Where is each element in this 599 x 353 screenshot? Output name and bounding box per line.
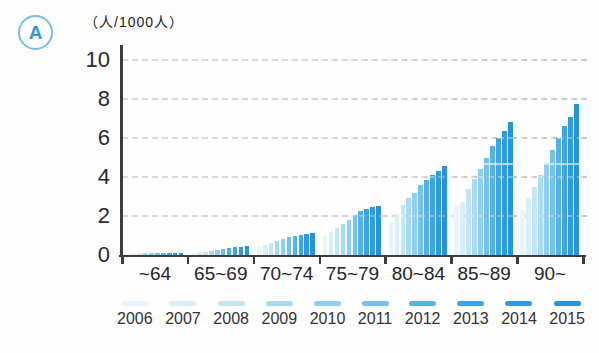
x-category-label-75~79: 75~79 [326,263,379,285]
legend-item-2012: 2012 [405,301,441,328]
x-axis-tick-7 [582,256,585,264]
x-axis-tick-6 [516,256,519,264]
bar-2011-85~89 [484,158,489,256]
x-axis-tick-5 [450,256,453,264]
legend-item-2015: 2015 [549,301,585,328]
legend-swatch-2012 [409,301,436,306]
bar-2009-70~74 [275,241,280,255]
gridline-overlay-y2 [122,215,583,217]
bar-2011-75~79 [353,215,358,255]
legend-item-2008: 2008 [213,301,249,328]
legend-swatch-2011 [362,301,389,306]
legend-swatch-2010 [314,301,341,306]
x-category-label-70~74: 70~74 [260,263,313,285]
bar-2013-85~89 [496,138,501,255]
bar-2007-90~ [526,198,531,255]
legend-swatch-2007 [169,301,196,306]
bar-2011-90~ [550,150,555,255]
bar-2008-70~74 [269,243,274,255]
legend-swatch-2013 [457,301,484,306]
bar-2012-80~84 [424,180,429,255]
bar-2009-80~84 [406,198,411,255]
bar-2015-75~79 [376,206,381,255]
y-tick-label-4: 4 [64,164,110,190]
bar-2006-80~84 [389,222,394,255]
bar-2007-80~84 [395,214,400,255]
x-category-label-80~84: 80~84 [392,263,445,285]
bar-2014-70~74 [304,234,309,255]
x-axis-tick-1 [187,256,190,264]
bar-2006-85~89 [454,205,459,255]
legend-item-2013: 2013 [453,301,489,328]
legend-item-2010: 2010 [310,301,346,328]
bar-2007-75~79 [329,232,334,255]
legend-swatch-2008 [218,301,245,306]
y-tick-label-10: 10 [64,47,110,73]
gridline-overlay-y4 [122,176,583,178]
bar-2009-75~79 [341,224,346,255]
legend-item-2006: 2006 [117,301,153,328]
x-axis-tick-2 [253,256,256,264]
chart-legend: 2006200720082009201020112012201320142015 [117,301,585,328]
scanned-chart-page: A （人/1000人） 0246810~6465~6970~7475~7980~… [0,0,599,353]
bar-2011-80~84 [418,185,423,255]
legend-swatch-2014 [505,301,532,306]
y-tick-label-2: 2 [64,203,110,229]
gridline-overlay-y6 [122,137,583,139]
legend-year-label: 2007 [165,310,201,328]
legend-year-label: 2013 [453,310,489,328]
bar-2014-80~84 [436,171,441,255]
legend-item-2009: 2009 [262,301,298,328]
bar-2012-75~79 [358,211,363,255]
legend-item-2007: 2007 [165,301,201,328]
bar-2008-75~79 [335,228,340,255]
bar-2015-90~ [574,104,579,255]
legend-year-label: 2011 [358,310,392,328]
bar-2011-70~74 [287,237,292,255]
legend-swatch-2015 [554,301,581,306]
x-axis-tick-4 [384,256,387,264]
x-category-label-85~89: 85~89 [458,263,511,285]
bar-2007-85~89 [460,202,465,255]
legend-year-label: 2008 [213,310,249,328]
print-artifact-line [452,163,583,165]
legend-year-label: 2009 [262,310,298,328]
bar-2008-90~ [532,187,537,255]
bar-2013-90~ [562,126,567,255]
legend-item-2014: 2014 [501,301,537,328]
bar-2015-85~89 [508,122,513,255]
x-category-label-~64: ~64 [139,263,171,285]
legend-swatch-2009 [266,301,293,306]
y-axis-line [120,45,123,257]
x-axis-tick-3 [319,256,322,264]
x-category-label-65~69: 65~69 [194,263,247,285]
bar-2010-85~89 [478,169,483,255]
bar-2006-75~79 [323,236,328,256]
x-axis-tick-0 [121,256,124,264]
bar-2012-90~ [556,138,561,255]
gridline-overlay-y8 [122,98,583,100]
bar-2014-85~89 [502,131,507,255]
bar-2008-85~89 [466,189,471,255]
legend-year-label: 2014 [501,310,537,328]
bar-2015-70~74 [310,233,315,255]
x-category-label-90~: 90~ [534,263,566,285]
legend-year-label: 2006 [117,310,153,328]
bar-2010-75~79 [347,220,352,255]
legend-year-label: 2012 [405,310,441,328]
legend-year-label: 2015 [549,310,585,328]
bar-2008-80~84 [401,205,406,255]
y-tick-label-0: 0 [64,242,110,268]
legend-year-label: 2010 [310,310,346,328]
legend-item-2011: 2011 [358,301,392,328]
bar-2010-80~84 [412,193,417,255]
legend-swatch-2006 [121,301,148,306]
bar-2010-70~74 [281,239,286,255]
y-tick-label-6: 6 [64,125,110,151]
y-tick-label-8: 8 [64,86,110,112]
bar-2013-70~74 [299,235,304,255]
bar-2012-70~74 [293,236,298,256]
gridline-overlay-y10 [122,59,583,61]
bar-2015-80~84 [442,166,447,255]
